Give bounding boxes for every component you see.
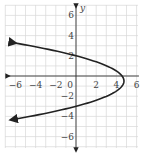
y-tick-label: −2 — [61, 91, 74, 101]
y-tick-label: 4 — [68, 31, 74, 41]
x-tick-label: 0 — [67, 80, 73, 90]
x-tick-label: −2 — [49, 80, 62, 90]
x-tick-label: 6 — [134, 80, 140, 90]
axes — [8, 6, 139, 150]
grid-lines — [5, 5, 138, 148]
x-tick-label: −4 — [29, 80, 43, 90]
x-tick-label: −6 — [9, 80, 23, 90]
y-axis-label: y — [79, 3, 86, 13]
x-tick-label: 2 — [93, 80, 99, 90]
y-tick-label: −6 — [61, 132, 75, 142]
y-tick-label: 6 — [68, 10, 74, 20]
y-tick-label: −4 — [61, 111, 75, 121]
coordinate-plane: −6−4−20246642−2−4−6 y — [0, 0, 141, 153]
